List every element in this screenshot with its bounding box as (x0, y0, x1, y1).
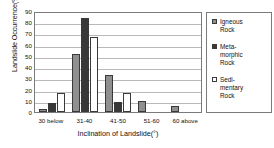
legend-swatch-icon (212, 44, 217, 49)
bar-group (35, 13, 68, 112)
y-axis-tick-label: 40 (25, 65, 32, 71)
legend-label: Meta- morphic Rock (220, 43, 243, 67)
y-axis-tick-label: 90 (25, 9, 32, 15)
legend: Igneous RockMeta- morphic RockSedi- ment… (206, 12, 272, 113)
bar[interactable] (90, 37, 98, 112)
bar-group (135, 13, 168, 112)
bar[interactable] (123, 93, 131, 112)
legend-swatch-icon (212, 19, 217, 24)
bar[interactable] (114, 102, 122, 112)
legend-item[interactable]: Igneous Rock (212, 18, 271, 34)
bar[interactable] (81, 18, 89, 112)
bar[interactable] (138, 101, 146, 112)
bar[interactable] (171, 106, 179, 112)
legend-label: Sedi- mentary Rock (220, 76, 243, 100)
landslide-occurrence-bar-chart: Landslide Occurrence(%) 0102030405060708… (0, 0, 274, 148)
y-axis-tick-label: 50 (25, 54, 32, 60)
y-axis-tick-label: 60 (25, 43, 32, 49)
x-axis-tick-label: 41-50 (101, 117, 135, 124)
legend-swatch-icon (212, 77, 217, 82)
y-axis-tick-label: 10 (25, 99, 32, 105)
y-axis-tick-labels: 0102030405060708090 (18, 12, 32, 113)
x-axis-tick-label: 60 above (168, 117, 202, 124)
x-axis-tick-label: 31-40 (68, 117, 102, 124)
bar[interactable] (48, 103, 56, 112)
legend-item[interactable]: Meta- morphic Rock (212, 43, 271, 67)
y-axis-tick-label: 30 (25, 76, 32, 82)
y-axis-tick-label: 20 (25, 87, 32, 93)
x-axis-title: Inclination of Landslide(°) (34, 129, 202, 138)
legend-label: Igneous Rock (220, 18, 243, 34)
bar-group (168, 13, 201, 112)
bar[interactable] (39, 109, 47, 112)
y-axis-tick-label: 70 (25, 31, 32, 37)
x-axis-tick-label: 30 below (34, 117, 68, 124)
bar[interactable] (57, 93, 65, 112)
legend-item[interactable]: Sedi- mentary Rock (212, 76, 271, 100)
bar-group (68, 13, 101, 112)
x-axis-tick-label: 51-60 (135, 117, 169, 124)
x-axis-tick-labels: 30 below31-4041-5051-6060 above (34, 117, 202, 124)
y-axis-tick-label: 80 (25, 20, 32, 26)
bar[interactable] (72, 54, 80, 112)
plot-area (34, 12, 202, 113)
bar-group (101, 13, 134, 112)
y-axis-tick-label: 0 (29, 110, 32, 116)
bar[interactable] (105, 75, 113, 112)
bar-groups (35, 13, 201, 112)
